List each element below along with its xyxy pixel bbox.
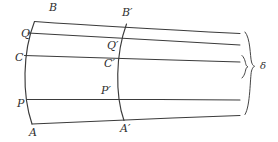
delta-brace-icon (242, 56, 248, 79)
vertex-label-B-prime: B′ (122, 7, 133, 18)
vertex-label-P: P (17, 98, 24, 109)
cross-sections-group (25, 22, 127, 125)
top-fiber-line (35, 22, 241, 34)
vertex-label-Q: Q (21, 28, 30, 39)
vertex-label-C: C (15, 52, 23, 63)
vertex-label-A-prime: A′ (120, 123, 130, 134)
vertex-label-C-prime: C′ (104, 58, 115, 69)
outer-brace-icon (245, 32, 255, 115)
figure-container: B Q C P A B′ Q′ C′ P′ A′ δ (0, 0, 278, 142)
vertex-label-B: B (49, 2, 57, 13)
neutral-fiber-line (25, 56, 241, 63)
bottom-fiber-line (32, 116, 240, 125)
delta-dimension-label: δ (260, 61, 266, 71)
vertex-label-P-prime: P′ (101, 85, 111, 96)
vertex-label-Q-prime: Q′ (107, 40, 119, 51)
fiber-lines-group (25, 22, 241, 125)
lower-fiber-line (27, 99, 241, 100)
diagram-canvas (0, 0, 278, 142)
upper-fiber-line (28, 33, 240, 45)
vertex-label-A: A (29, 127, 37, 138)
braces-group (242, 32, 255, 115)
